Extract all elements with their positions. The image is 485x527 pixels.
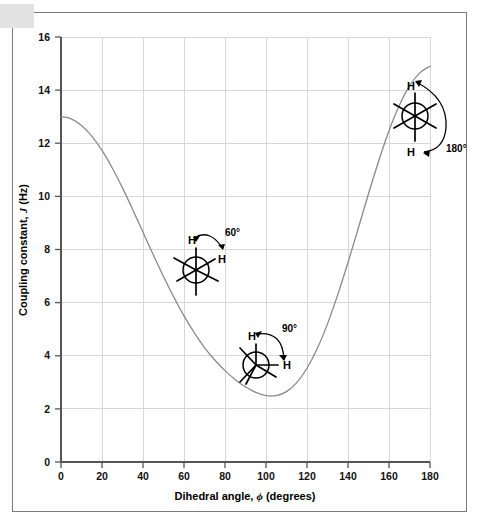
x-tick-label: 20 [96, 470, 108, 482]
y-tick-labels: 0 2 4 6 8 10 12 14 16 [38, 31, 50, 468]
front-bond-upperright [415, 104, 436, 116]
y-axis-ticks [55, 37, 61, 462]
hydrogen-back-label: H [283, 359, 291, 371]
back-bond [415, 116, 436, 128]
arrow-head [415, 80, 422, 87]
x-tick-label: 160 [380, 470, 398, 482]
y-tick-label: 8 [44, 243, 50, 255]
y-axis-title-pre: Coupling constant, [17, 213, 29, 316]
grid-lines [61, 37, 430, 462]
y-axis-title-post: (Hz) [17, 184, 29, 208]
x-tick-label: 40 [137, 470, 149, 482]
x-tick-label: 100 [257, 470, 275, 482]
angle-label-60: 60° [225, 227, 240, 238]
back-bond [240, 348, 256, 365]
newman-projection-90: H H 90° [240, 323, 297, 384]
arrow-head [255, 331, 262, 338]
x-axis-ticks [61, 462, 430, 468]
y-tick-label: 14 [38, 84, 50, 96]
y-tick-label: 4 [44, 349, 50, 361]
hydrogen-front-label: H [407, 80, 415, 92]
x-axis-title: Dihedral angle, ϕ (degrees) [175, 490, 316, 502]
y-tick-label: 6 [44, 296, 50, 308]
x-tick-label: 60 [178, 470, 190, 482]
x-tick-label: 120 [298, 470, 316, 482]
x-axis-title-post: (degrees) [263, 490, 316, 502]
x-axis-title-pre: Dihedral angle, [175, 490, 257, 502]
back-bond [394, 116, 415, 128]
angle-label-180: 180° [446, 143, 467, 154]
hydrogen-back-label: H [407, 146, 415, 158]
x-tick-label: 180 [421, 470, 439, 482]
karplus-curve [61, 66, 430, 396]
x-tick-label: 0 [58, 470, 64, 482]
x-tick-label: 140 [339, 470, 357, 482]
y-tick-label: 0 [44, 456, 50, 468]
y-tick-label: 2 [44, 403, 50, 415]
figure-root: 0 2 4 6 8 10 12 14 16 0 20 40 60 80 100 … [0, 0, 485, 527]
x-tick-label: 80 [219, 470, 231, 482]
y-tick-label: 12 [38, 137, 50, 149]
y-tick-label: 16 [38, 31, 50, 43]
rotation-arc [416, 82, 446, 152]
hydrogen-front-label: H [248, 330, 256, 342]
chart-svg: 0 2 4 6 8 10 12 14 16 0 20 40 60 80 100 … [0, 0, 485, 527]
hydrogen-back-label: H [218, 253, 226, 265]
x-tick-labels: 0 20 40 60 80 100 120 140 160 180 [58, 470, 439, 482]
y-tick-label: 10 [38, 190, 50, 202]
angle-label-90: 90° [282, 323, 297, 334]
y-axis-title: Coupling constant, J (Hz) [17, 184, 29, 316]
